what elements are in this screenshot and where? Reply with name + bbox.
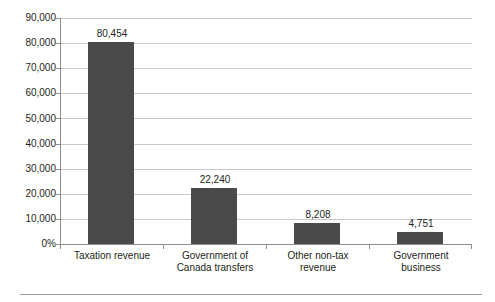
- plot-area: [60, 18, 472, 244]
- x-category-label-government-of-canada-transfers: Government of Canada transfers: [164, 250, 266, 274]
- x-category-label-other-non-tax-revenue: Other non-tax revenue: [267, 250, 369, 274]
- bar-other-non-tax-revenue[interactable]: [294, 223, 340, 244]
- x-category-label-line: revenue: [267, 262, 369, 274]
- x-category-label-line: Other non-tax: [267, 250, 369, 262]
- y-tick-label: 10,000: [4, 214, 56, 224]
- y-tick-label: 50,000: [4, 114, 56, 124]
- x-category-label-taxation-revenue: Taxation revenue: [61, 250, 163, 262]
- bar-government-business[interactable]: [397, 232, 443, 244]
- y-axis-labels: 90,000 80,000 70,000 60,000 50,000 40,00…: [0, 0, 56, 302]
- x-axis-tick: [369, 244, 370, 249]
- gridline: [60, 18, 472, 19]
- y-tick-label: 60,000: [4, 88, 56, 98]
- x-axis-tick: [60, 244, 61, 249]
- x-category-label-line: Taxation revenue: [61, 250, 163, 262]
- x-category-label-government-business: Government business: [370, 250, 472, 274]
- bar-value-label: 4,751: [370, 218, 472, 229]
- y-tick-label: 70,000: [4, 63, 56, 73]
- bar-taxation-revenue[interactable]: [88, 42, 134, 244]
- x-category-label-line: Government of: [164, 250, 266, 262]
- bar-value-label: 8,208: [267, 209, 369, 220]
- x-axis-tick: [163, 244, 164, 249]
- bar-value-label: 80,454: [61, 28, 163, 39]
- y-tick-label: 20,000: [4, 189, 56, 199]
- x-category-label-line: business: [370, 262, 472, 274]
- bar-value-label: 22,240: [164, 174, 266, 185]
- footer-divider: [20, 294, 482, 295]
- bar-chart: 90,000 80,000 70,000 60,000 50,000 40,00…: [0, 0, 495, 302]
- y-tick-label: 30,000: [4, 164, 56, 174]
- x-axis-tick: [266, 244, 267, 249]
- y-tick-label: 80,000: [4, 38, 56, 48]
- y-tick-label: 90,000: [4, 13, 56, 23]
- y-axis-line: [60, 18, 61, 245]
- bar-government-of-canada-transfers[interactable]: [191, 188, 237, 244]
- x-category-label-line: Canada transfers: [164, 262, 266, 274]
- y-tick-label: 0%: [4, 239, 56, 249]
- x-axis-tick: [471, 244, 472, 249]
- x-category-label-line: Government: [370, 250, 472, 262]
- y-tick-label: 40,000: [4, 139, 56, 149]
